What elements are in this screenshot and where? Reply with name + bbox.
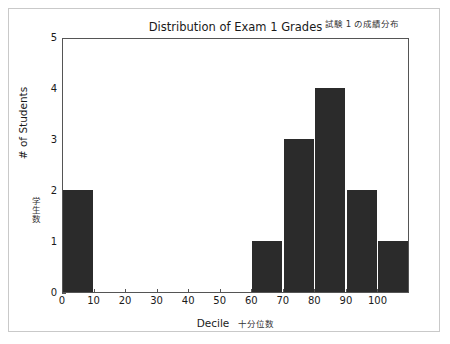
bar [252, 241, 282, 292]
page-frame: Distribution of Exam 1 Grades 試験 1 の成績分布… [8, 8, 440, 332]
y-axis-tick-labels: 012345 [31, 38, 57, 293]
y-tick-label: 1 [35, 237, 57, 247]
bar [315, 88, 345, 292]
x-tick-mark [377, 289, 378, 293]
y-tick-label: 2 [35, 186, 57, 196]
y-axis-label: # of Students [17, 63, 29, 183]
bars-layer [63, 39, 408, 292]
x-tick-mark [157, 289, 158, 293]
chart-figure: Distribution of Exam 1 Grades 試験 1 の成績分布… [9, 9, 441, 333]
y-tick-label: 4 [35, 84, 57, 94]
y-tick-label: 5 [35, 33, 57, 43]
bar [347, 190, 377, 292]
y-tick-mark [62, 293, 66, 294]
x-tick-mark [62, 289, 63, 293]
x-tick-mark [346, 289, 347, 293]
x-tick-label: 100 [357, 296, 397, 306]
x-axis-tick-marks [62, 289, 409, 293]
x-tick-mark [220, 289, 221, 293]
x-tick-mark [94, 289, 95, 293]
bar [284, 139, 314, 292]
x-axis-tick-labels: 0102030405060708090100 [62, 296, 409, 310]
x-tick-mark [314, 289, 315, 293]
chart-title-annotation: 試験 1 の成績分布 [325, 17, 399, 29]
x-tick-mark [251, 289, 252, 293]
x-axis-label-annotation: 十分位数 [238, 319, 274, 329]
bar [63, 190, 93, 292]
x-axis-label-row: Decile十分位数 [62, 312, 409, 331]
x-axis-label: Decile [197, 317, 230, 329]
x-tick-mark [283, 289, 284, 293]
y-tick-label: 3 [35, 135, 57, 145]
x-tick-mark [125, 289, 126, 293]
x-tick-mark [188, 289, 189, 293]
bar [378, 241, 408, 292]
plot-area [62, 38, 409, 293]
